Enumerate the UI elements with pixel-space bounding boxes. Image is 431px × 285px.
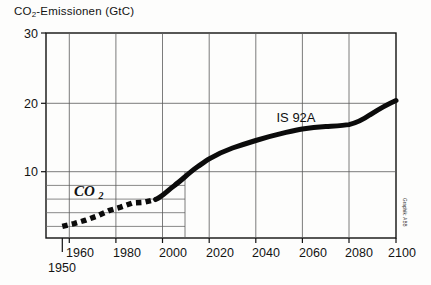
x-tick-label-2040: 2040 (252, 246, 280, 260)
horizontal-gridlines (46, 103, 396, 171)
x-tick-label-2060: 2060 (299, 246, 327, 260)
x-tick-label-1980: 1980 (113, 246, 141, 260)
annotation-co2-text: CO (74, 183, 95, 199)
y-tick-label-30: 30 (24, 27, 38, 41)
annotation-is92a-label: IS 92A (276, 110, 315, 125)
y-tick-marks (41, 33, 46, 172)
x-tick-label-2000: 2000 (159, 246, 187, 260)
chart-plot-area: 30 20 10 1960 1980 2000 2020 2040 2060 2… (0, 0, 431, 285)
y-tick-label-10: 10 (24, 165, 38, 179)
x-tick-label-1950: 1950 (48, 261, 76, 275)
x-tick-label-2020: 2020 (206, 246, 234, 260)
plot-frame (46, 33, 396, 238)
y-tick-label-20: 20 (24, 97, 38, 111)
x-tick-label-1960: 1960 (66, 246, 94, 260)
x-axis-labels: 1960 1980 2000 2020 2040 2060 2080 2100 … (48, 246, 416, 275)
chart-figure: CO2-Emissionen (GtC) (0, 0, 431, 285)
x-tick-label-2100: 2100 (388, 246, 416, 260)
y-axis-labels: 30 20 10 (24, 27, 38, 179)
x-tick-label-2080: 2080 (345, 246, 373, 260)
chart-credit: Graphik: ABB (402, 198, 407, 227)
